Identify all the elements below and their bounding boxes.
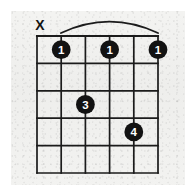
finger-dot-label: 4: [131, 126, 138, 138]
finger-dot-label: 1: [106, 44, 113, 56]
mute-markers-group: X: [35, 17, 45, 33]
finger-dot-label: 3: [82, 99, 88, 111]
finger-dot-4-string-4-fret-4: 4: [124, 122, 143, 141]
mute-marker-string-0: X: [35, 17, 45, 33]
chord-diagram: X 11134: [0, 0, 196, 194]
barre-arc-group: [61, 22, 158, 33]
finger-dot-1-string-5-fret-1: 1: [149, 40, 168, 59]
finger-dot-1-string-3-fret-1: 1: [100, 40, 119, 59]
finger-dot-label: 1: [58, 44, 65, 56]
finger-dot-3-string-2-fret-3: 3: [76, 95, 95, 114]
barre-arc: [61, 22, 158, 33]
finger-dot-label: 1: [155, 44, 162, 56]
fretboard-svg: X 11134: [0, 0, 196, 194]
finger-dot-1-string-1-fret-1: 1: [52, 40, 71, 59]
